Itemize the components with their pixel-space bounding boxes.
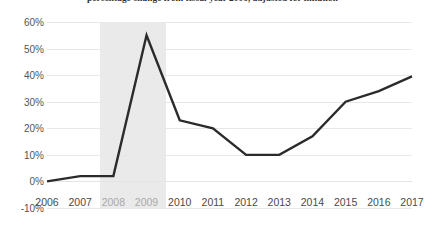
y-tick-label-0: 0%	[2, 176, 44, 187]
line-series	[47, 22, 412, 208]
x-tick-label-2012: 2012	[234, 196, 257, 208]
x-tick-label-2008: 2008	[102, 196, 125, 208]
chart-container: percentage change from fiscal year 2006,…	[0, 0, 425, 236]
x-tick-label-2015: 2015	[334, 196, 357, 208]
y-tick-label-30: 30%	[2, 96, 44, 107]
x-axis: 2006200720082009201020112012201320142015…	[47, 196, 412, 216]
y-tick-label-10: 10%	[2, 149, 44, 160]
x-tick-label-2007: 2007	[68, 196, 91, 208]
chart-title: percentage change from fiscal year 2006,…	[0, 0, 425, 3]
x-tick-label-2013: 2013	[268, 196, 291, 208]
y-axis: 60%50%40%30%20%10%0%-10%	[0, 22, 44, 208]
x-tick-label-2009: 2009	[135, 196, 158, 208]
y-tick-label-20: 20%	[2, 123, 44, 134]
y-tick-label-60: 60%	[2, 17, 44, 28]
x-tick-label-2010: 2010	[168, 196, 191, 208]
plot-area	[47, 22, 412, 208]
y-tick-label-50: 50%	[2, 43, 44, 54]
x-tick-label-2006: 2006	[35, 196, 58, 208]
x-tick-label-2011: 2011	[202, 196, 225, 208]
x-tick-label-2016: 2016	[367, 196, 390, 208]
x-tick-label-2014: 2014	[301, 196, 324, 208]
y-tick-label-40: 40%	[2, 70, 44, 81]
x-tick-label-2017: 2017	[400, 196, 423, 208]
